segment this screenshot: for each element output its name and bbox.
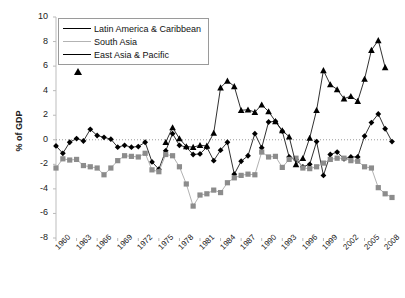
diamond-marker-icon (63, 23, 91, 34)
square-marker-icon (63, 36, 91, 47)
legend-item-latin-america: Latin America & Caribbean (63, 22, 201, 35)
triangle-marker-icon (63, 49, 91, 60)
chart-container: % of GDP 1086420-2-4-6-8 196019631966196… (0, 0, 405, 298)
chart-legend: Latin America & Caribbean South Asia Eas… (58, 18, 209, 65)
legend-label-latin-america: Latin America & Caribbean (94, 24, 201, 34)
legend-item-east-asia: East Asia & Pacific (63, 48, 201, 61)
legend-label-east-asia: East Asia & Pacific (94, 50, 169, 60)
legend-item-south-asia: South Asia (63, 35, 201, 48)
legend-label-south-asia: South Asia (94, 37, 137, 47)
